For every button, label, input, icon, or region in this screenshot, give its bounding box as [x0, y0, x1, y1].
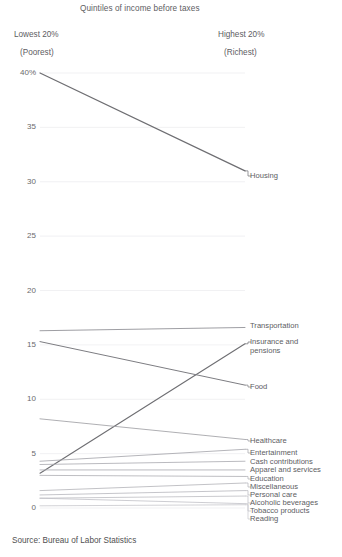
series-label-healthcare[interactable]: Healthcare — [250, 437, 287, 446]
series-line-reading[interactable] — [40, 505, 245, 506]
series-line-personal-care[interactable] — [40, 491, 245, 495]
series-line-miscellaneous[interactable] — [40, 483, 245, 491]
series-line-education[interactable] — [40, 475, 245, 476]
cut-off-footnote — [12, 552, 342, 557]
series-label-transportation[interactable]: Transportation — [250, 322, 299, 331]
series-label-food[interactable]: Food — [250, 383, 267, 392]
series-line-healthcare[interactable] — [40, 419, 245, 440]
series-line-cash-contributions[interactable] — [40, 461, 245, 464]
series-line-entertainment[interactable] — [40, 449, 245, 461]
series-line-housing[interactable] — [40, 73, 245, 171]
series-line-alcoholic-beverages[interactable] — [40, 496, 245, 498]
series-label-reading[interactable]: Reading — [250, 515, 278, 524]
income-quintile-line-chart: Quintiles of income before taxes Lowest … — [0, 0, 342, 557]
series-line-transportation[interactable] — [40, 327, 245, 330]
series-label-insurance-and-pensions[interactable]: Insurance and pensions — [250, 338, 310, 355]
source-note: Source: Bureau of Labor Statistics — [12, 536, 136, 545]
series-line-tobacco-products[interactable] — [40, 498, 245, 503]
series-label-housing[interactable]: Housing — [250, 172, 278, 181]
